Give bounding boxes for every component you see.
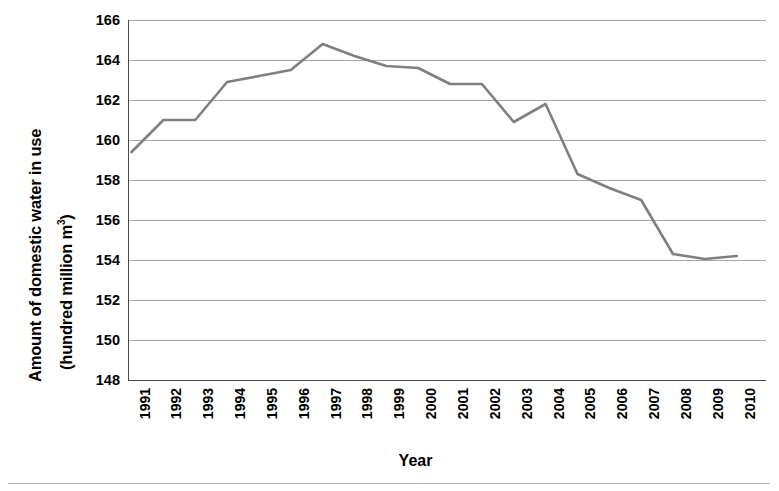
y-axis-tick-label: 154 <box>74 253 120 268</box>
y-axis-tick-labels: 166164162160158156154152150148 <box>68 0 120 400</box>
x-axis-tick-label: 2010 <box>742 388 758 419</box>
x-axis-tick-label: 2009 <box>710 388 726 419</box>
x-axis-title: Year <box>0 452 779 470</box>
y-axis-title: Amount of domestic water in use (hundred… <box>0 0 64 400</box>
y-axis-tick-label: 160 <box>74 133 120 148</box>
x-axis-tick-label: 1995 <box>264 388 280 419</box>
y-axis-title-units-exponent: 3 <box>56 220 67 225</box>
x-axis-tick-label: 2002 <box>487 388 503 419</box>
x-axis-tick-labels: 1991199219931994199519961997199819992000… <box>128 386 768 456</box>
y-axis-tick-label: 162 <box>74 93 120 108</box>
x-axis-tick-label: 2007 <box>646 388 662 419</box>
x-axis-tick-label: 1992 <box>168 388 184 419</box>
x-axis-tick-label: 1994 <box>232 388 248 419</box>
x-axis-tick-label: 1998 <box>359 388 375 419</box>
y-axis-tick-label: 156 <box>74 213 120 228</box>
x-axis-tick-label: 1993 <box>200 388 216 419</box>
x-axis-tick-label: 2004 <box>551 388 567 419</box>
gridlines <box>129 21 766 381</box>
x-axis-tick-label: 1999 <box>391 388 407 419</box>
x-axis-tick-label: 1997 <box>328 388 344 419</box>
x-axis-tick-label: 2001 <box>455 388 471 419</box>
y-axis-tick-label: 158 <box>74 173 120 188</box>
x-axis-tick-label: 2005 <box>582 388 598 419</box>
x-axis-tick-marks <box>130 380 767 381</box>
y-axis-tick-label: 150 <box>74 333 120 348</box>
chart-figure: Amount of domestic water in use (hundred… <box>0 0 779 491</box>
plot-area <box>128 20 766 381</box>
y-axis-tick-label: 164 <box>74 53 120 68</box>
data-series-line <box>132 44 737 259</box>
y-axis-tick-label: 148 <box>74 373 120 388</box>
y-axis-tick-label: 166 <box>74 13 120 28</box>
x-axis-tick-label: 2008 <box>678 388 694 419</box>
x-axis-tick-label: 1991 <box>137 388 153 419</box>
x-axis-tick-label: 2006 <box>614 388 630 419</box>
footer-divider <box>8 483 770 484</box>
x-axis-tick-label: 1996 <box>296 388 312 419</box>
y-axis-title-line-1: Amount of domestic water in use <box>26 129 45 382</box>
y-axis-tick-label: 152 <box>74 293 120 308</box>
chart-svg <box>129 20 766 381</box>
x-axis-tick-label: 2000 <box>423 388 439 419</box>
x-axis-tick-label: 2003 <box>519 388 535 419</box>
